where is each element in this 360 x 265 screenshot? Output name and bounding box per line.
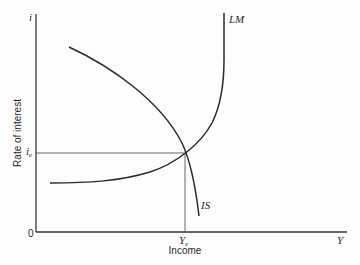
ie-label: ie: [26, 146, 32, 159]
x-axis-symbol: Y: [337, 235, 343, 246]
lm-label: LM: [229, 14, 244, 25]
lm-curve: [50, 13, 224, 183]
is-lm-chart: [0, 0, 360, 265]
ie-sub: e: [29, 151, 32, 159]
origin-label: 0: [28, 229, 34, 239]
is-curve: [69, 47, 199, 216]
y-axis-symbol: i: [29, 12, 32, 23]
x-axis-title: Income: [165, 246, 205, 256]
y-axis-title: Rate of interest: [13, 93, 23, 173]
is-label: IS: [201, 200, 210, 211]
